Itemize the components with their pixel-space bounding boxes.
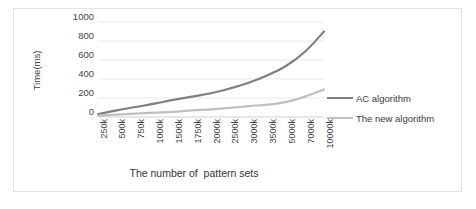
x-axis-tick-label: 250k (99, 119, 109, 165)
x-axis-tick-label: 1000k (155, 119, 165, 165)
y-axis-title: Time(ms) (31, 36, 42, 106)
x-axis-tick-labels: 250k500k750k1000k1500k1750k2000k2500k300… (98, 119, 324, 167)
x-axis-tick-label: 1500k (174, 119, 184, 165)
x-axis-tick-label: 750k (136, 119, 146, 165)
legend-item[interactable]: The new algorithm (327, 108, 463, 128)
y-axis-tick-label: 400 (54, 69, 94, 79)
y-axis-tick-label: 600 (54, 50, 94, 60)
chart-legend: AC algorithmThe new algorithm (327, 88, 463, 128)
x-axis-tick-label: 2000k (212, 119, 222, 165)
legend-color-swatch (327, 97, 353, 99)
y-axis-tick-label: 800 (54, 31, 94, 41)
x-axis-tick-label: 2500k (230, 119, 240, 165)
legend-item[interactable]: AC algorithm (327, 88, 463, 108)
x-axis-tick-label: 5000k (287, 119, 297, 165)
legend-color-swatch (327, 117, 353, 119)
plot-area (98, 22, 324, 117)
chart-plot-wrapper: Time(ms) 10008006004002000 250k500k750k1… (14, 9, 461, 191)
chart-svg (98, 22, 324, 117)
x-axis-tick-label: 3500k (268, 119, 278, 165)
chart-container: Time(ms) 10008006004002000 250k500k750k1… (13, 8, 462, 192)
y-axis-tick-label: 1000 (54, 12, 94, 22)
legend-item-label: AC algorithm (356, 93, 411, 104)
x-axis-title: The number of pattern sets (54, 167, 334, 179)
legend-item-label: The new algorithm (356, 113, 434, 124)
x-axis-tick-label: 500k (117, 119, 127, 165)
x-axis-tick-label: 3000k (249, 119, 259, 165)
y-axis-tick-label: 0 (54, 107, 94, 117)
x-axis-tick-label: 1750k (193, 119, 203, 165)
x-axis-tick-label: 7000k (306, 119, 316, 165)
y-axis-tick-label: 200 (54, 88, 94, 98)
y-axis-tick-labels: 10008006004002000 (54, 17, 94, 112)
